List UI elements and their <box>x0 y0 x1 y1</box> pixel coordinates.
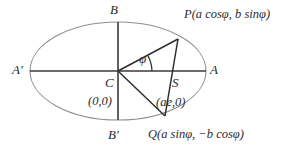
segment-cp <box>118 39 178 71</box>
label-point-q: Q(a sinφ, −b cosφ) <box>148 128 244 141</box>
ellipse-figure: B B′ A′ A C (0,0) S (ae,0) φ P(a cosφ, b… <box>0 0 297 148</box>
label-point-p: P(a cosφ, b sinφ) <box>184 8 270 21</box>
angle-phi-arc <box>148 56 152 71</box>
label-center-coord: (0,0) <box>88 95 112 108</box>
label-center: C <box>105 76 114 89</box>
segment-cq <box>118 71 165 116</box>
label-vertex-top: B <box>110 3 118 16</box>
label-focus: S <box>172 76 179 89</box>
label-vertex-bottom: B′ <box>108 128 119 141</box>
label-angle-phi: φ <box>139 52 146 65</box>
label-vertex-left: A′ <box>12 63 23 76</box>
label-vertex-right: A <box>210 63 218 76</box>
ellipse-diagram <box>0 0 297 148</box>
label-focus-coord: (ae,0) <box>156 96 186 109</box>
